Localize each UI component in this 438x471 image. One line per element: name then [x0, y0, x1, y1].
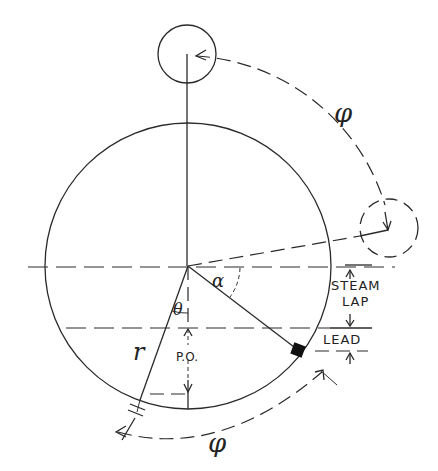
- phi-arc-top: [196, 56, 385, 205]
- tick-mark: [128, 410, 143, 416]
- phi-arrow-tail: [320, 370, 337, 385]
- radius-label: r: [133, 338, 146, 366]
- alpha-label: α: [212, 270, 224, 291]
- eccentric-radius-solid: [360, 230, 388, 236]
- phi-label-bottom: φ: [208, 428, 227, 458]
- diagram-canvas: φ φ α θ r STEAM LAP LEAD P.O.: [0, 0, 438, 471]
- crank-pin-marker: [290, 342, 305, 357]
- phi-arrow-bottom-right: [315, 370, 324, 380]
- steam-label: STEAM: [331, 278, 381, 293]
- lap-label: LAP: [342, 294, 369, 309]
- theta-label: θ: [173, 300, 183, 319]
- po-label: P.O.: [176, 350, 198, 364]
- lead-label: LEAD: [323, 332, 361, 347]
- valve-eccentric-diagram: φ φ α θ r STEAM LAP LEAD P.O.: [0, 0, 438, 471]
- tick-mark: [137, 400, 140, 412]
- alpha-angle-arc: [230, 268, 240, 297]
- crank-line-alpha: [188, 266, 298, 350]
- phi-arrow-top: [196, 50, 206, 60]
- eccentric-radius-dashed: [188, 236, 360, 266]
- phi-label-top: φ: [334, 98, 353, 128]
- radius-line: [140, 266, 188, 400]
